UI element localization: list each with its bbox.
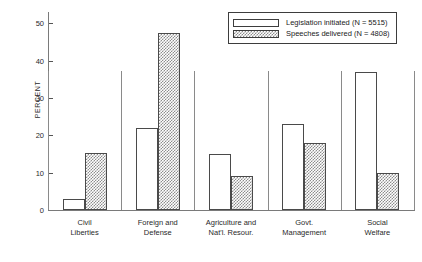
y-axis-tick-label: 30 (22, 93, 44, 102)
x-axis-tick-label-line: Welfare (341, 228, 414, 238)
category-divider (268, 71, 269, 210)
bar (85, 153, 107, 210)
x-axis-tick-label-line: Agriculture and (194, 218, 267, 228)
x-axis-tick-label-line: Liberties (48, 228, 121, 238)
bar-group (121, 12, 194, 210)
bar (355, 72, 377, 210)
x-axis-tick-label-line: Social (341, 218, 414, 228)
bar-group (48, 12, 121, 210)
x-axis-tick-label-line: Nat'l. Resour. (194, 228, 267, 238)
category-divider (121, 71, 122, 210)
y-axis-tick-label: 0 (22, 206, 44, 215)
chart-legend: Legislation initiated (N = 5515)Speeches… (228, 12, 397, 44)
y-axis-tick-label: 20 (22, 131, 44, 140)
y-axis-tick-label: 10 (22, 168, 44, 177)
category-divider (414, 71, 415, 210)
bar (304, 143, 326, 210)
legend-label: Speeches delivered (N = 4808) (286, 29, 390, 38)
legend-item: Speeches delivered (N = 4808) (233, 28, 390, 39)
bar (136, 128, 158, 210)
bar (377, 173, 399, 210)
x-axis-tick-label-line: Civil (48, 218, 121, 228)
x-axis-tick-label-line: Defense (121, 228, 194, 238)
bar (231, 176, 253, 210)
x-axis-tick-label: Agriculture andNat'l. Resour. (194, 218, 267, 237)
x-axis-tick-label: Govt.Management (268, 218, 341, 237)
y-axis-tick-label: 50 (22, 19, 44, 28)
bar-chart: PERCENT 01020304050 CivilLibertiesForeig… (0, 0, 422, 262)
category-divider (341, 71, 342, 210)
bar (158, 33, 180, 210)
legend-item: Legislation initiated (N = 5515) (233, 17, 390, 28)
x-axis-tick-label-line: Foreign and (121, 218, 194, 228)
bar (209, 154, 231, 210)
x-axis-tick-label: Foreign andDefense (121, 218, 194, 237)
bar (63, 199, 85, 210)
x-axis-tick-label: CivilLiberties (48, 218, 121, 237)
x-axis-line (48, 210, 415, 211)
category-divider (194, 71, 195, 210)
y-axis-tick-label: 40 (22, 56, 44, 65)
legend-label: Legislation initiated (N = 5515) (286, 18, 388, 27)
bar (282, 124, 304, 210)
x-axis-tick-label-line: Govt. (268, 218, 341, 228)
legend-swatch (233, 19, 279, 27)
x-axis-tick-label-line: Management (268, 228, 341, 238)
x-axis-tick-label: SocialWelfare (341, 218, 414, 237)
category-divider (48, 71, 49, 210)
legend-swatch (233, 30, 279, 38)
